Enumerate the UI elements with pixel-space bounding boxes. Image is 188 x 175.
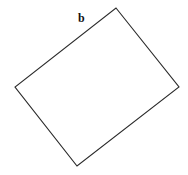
side-label-b: b xyxy=(78,12,85,24)
diagram-canvas xyxy=(0,0,188,175)
rotated-rectangle xyxy=(15,8,179,166)
